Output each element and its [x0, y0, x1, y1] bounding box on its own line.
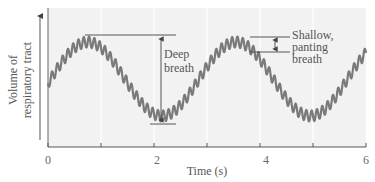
x-tick-label-6: 6 [363, 153, 369, 167]
x-tick-label-4: 4 [263, 153, 269, 167]
x-tick-label-0: 0 [45, 153, 51, 167]
x-tick-label-2: 2 [154, 153, 160, 167]
y-axis-title-line1: Volume of [6, 55, 20, 105]
shallow-breath-label-3: breath [292, 52, 322, 66]
deep-breath-label-2: breath [164, 61, 194, 75]
x-axis-title: Time (s) [187, 164, 228, 178]
respiration-chart: 0 2 4 6 Time (s) Volume of respiratory t… [0, 0, 375, 182]
y-axis-title-line2: respiratory tract [20, 41, 34, 118]
deep-breath-label-1: Deep [164, 47, 189, 61]
